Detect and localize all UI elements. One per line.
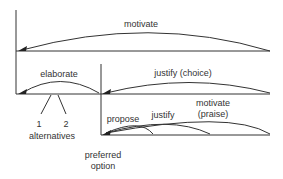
motivate-label: motivate: [124, 19, 158, 29]
motivate-arc: [22, 33, 270, 51]
motivate-praise-label-line1: motivate: [196, 98, 230, 108]
propose-label: propose: [107, 114, 140, 124]
justify-choice-arc: [106, 83, 270, 94]
preferred-label-line1: preferred: [85, 150, 122, 160]
preferred-label-line2: option: [91, 161, 116, 171]
motivate-arrowhead: [18, 46, 27, 51]
justify-choice-label: justify (choice): [153, 68, 212, 78]
alt2-branch: [58, 95, 66, 114]
elaborate-arc: [22, 82, 99, 94]
diagram: motivate elaborate justify (choice) 1 2 …: [0, 0, 283, 179]
justify-arc: [106, 124, 210, 134]
elaborate-label: elaborate: [40, 69, 78, 79]
alternatives-label: alternatives: [29, 131, 76, 141]
alt1-label: 1: [36, 119, 41, 129]
alt2-label: 2: [63, 119, 68, 129]
elaborate-arrowhead: [18, 89, 27, 94]
justify-choice-arrowhead: [102, 89, 111, 94]
alt1-branch: [41, 95, 51, 114]
motivate-praise-label-line2: (praise): [198, 109, 229, 119]
justify-label: justify: [150, 110, 175, 120]
third-arrowhead: [102, 130, 111, 135]
